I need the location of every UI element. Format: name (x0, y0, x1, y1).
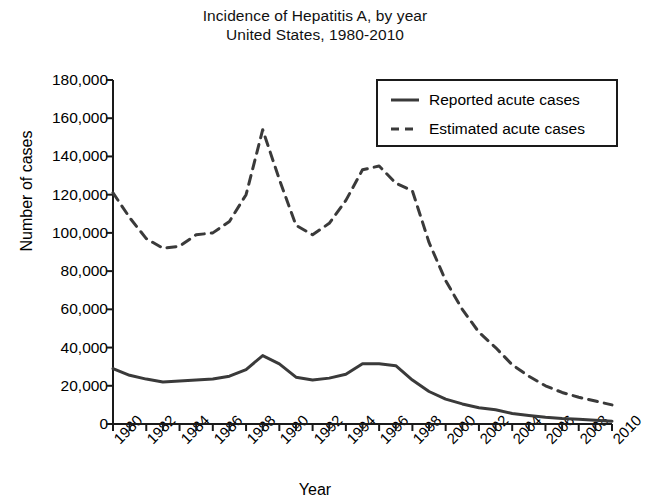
legend-sample-solid-line (390, 93, 420, 107)
legend-item-reported: Reported acute cases (390, 86, 580, 114)
x-axis-ticks (113, 424, 612, 431)
legend-label-estimated: Estimated acute cases (429, 120, 585, 138)
series-line-reported (113, 356, 612, 422)
legend-item-estimated: Estimated acute cases (390, 115, 585, 143)
y-axis-ticks (106, 80, 113, 424)
legend-label-reported: Reported acute cases (429, 91, 580, 109)
legend-sample-dashed-line (390, 122, 420, 136)
chart-legend: Reported acute cases Estimated acute cas… (376, 79, 618, 147)
data-series-group (113, 130, 612, 421)
